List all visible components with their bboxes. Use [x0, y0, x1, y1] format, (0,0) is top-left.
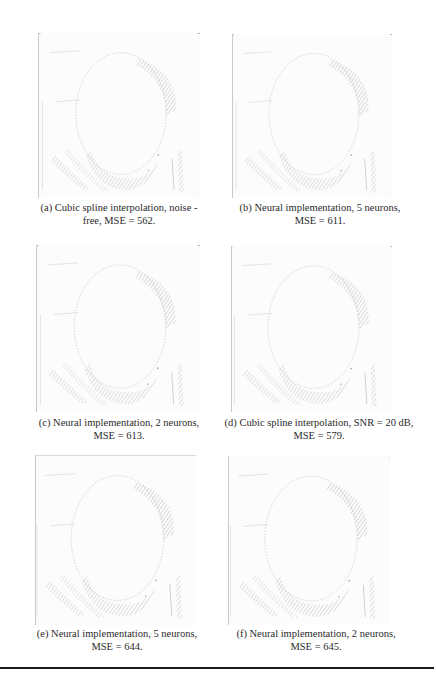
caption-line: (d) Cubic spline interpolation, SNR = 20…: [205, 416, 433, 429]
caption-line: free, MSE = 562.: [10, 214, 228, 227]
caption-line: (b) Neural implementation, 5 neurons,: [210, 201, 430, 214]
panel-c-caption: (c) Neural implementation, 2 neurons, MS…: [10, 416, 228, 442]
edge-map-image: [228, 456, 390, 625]
panel-c-image: [36, 245, 200, 412]
panel-a-caption: (a) Cubic spline interpolation, noise - …: [10, 201, 228, 227]
panel-e-caption: (e) Neural implementation, 5 neurons, MS…: [8, 627, 226, 653]
caption-line: MSE = 644.: [8, 640, 226, 653]
caption-line: (f) Neural implementation, 2 neurons,: [206, 627, 426, 640]
caption-line: MSE = 613.: [10, 429, 228, 442]
caption-line: MSE = 611.: [210, 214, 430, 227]
panel-f-image: [228, 456, 390, 625]
panel-d-image: [231, 246, 392, 412]
caption-line: MSE = 579.: [205, 429, 433, 442]
panel-a-image: [38, 33, 200, 198]
edge-map-image: [35, 455, 196, 625]
panel-b-image: [232, 34, 392, 198]
caption-line: (a) Cubic spline interpolation, noise -: [10, 201, 228, 214]
edge-map-image: [231, 246, 392, 412]
edge-map-image: [38, 33, 200, 198]
page-bottom-rule: [0, 667, 434, 669]
edge-map-image: [232, 34, 392, 198]
panel-f-caption: (f) Neural implementation, 2 neurons, MS…: [206, 627, 426, 653]
panel-b-caption: (b) Neural implementation, 5 neurons, MS…: [210, 201, 430, 227]
panel-d-caption: (d) Cubic spline interpolation, SNR = 20…: [205, 416, 433, 442]
caption-line: MSE = 645.: [206, 640, 426, 653]
caption-line: (c) Neural implementation, 2 neurons,: [10, 416, 228, 429]
panel-e-image: [35, 455, 196, 625]
edge-map-image: [36, 245, 200, 412]
caption-line: (e) Neural implementation, 5 neurons,: [8, 627, 226, 640]
